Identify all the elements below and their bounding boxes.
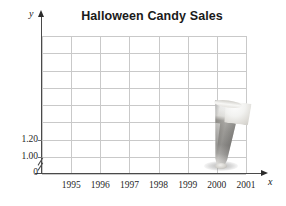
gridline-vertical: [159, 36, 160, 174]
glass-base: [215, 163, 227, 169]
y-axis-origin-label: 0: [8, 167, 38, 177]
x-axis-tick-label: 2001: [228, 180, 264, 190]
gridline-horizontal: [42, 36, 246, 37]
x-axis-label: x: [268, 176, 272, 187]
glass-pictograph: [198, 99, 242, 175]
gridline-horizontal: [42, 71, 246, 72]
y-axis-tick-mark: [38, 140, 42, 141]
y-axis-arrow-icon: [38, 10, 44, 17]
x-axis-arrow-icon: [261, 170, 268, 176]
gridline-vertical: [188, 36, 189, 174]
y-axis-label: y: [29, 8, 33, 19]
y-axis-tick-label: 1.20: [8, 134, 38, 144]
gridline-horizontal: [42, 53, 246, 54]
y-axis-tick-mark: [38, 157, 42, 158]
y-axis-tick-label: 1.00: [8, 151, 38, 161]
gridline-vertical: [100, 36, 101, 174]
chart-figure: Halloween Candy Sales y x 0 199519961997…: [0, 0, 286, 206]
gridline-vertical: [71, 36, 72, 174]
chart-title: Halloween Candy Sales: [62, 9, 242, 23]
gridline-vertical: [129, 36, 130, 174]
y-axis-line: [41, 16, 42, 174]
gridline-horizontal: [42, 88, 246, 89]
